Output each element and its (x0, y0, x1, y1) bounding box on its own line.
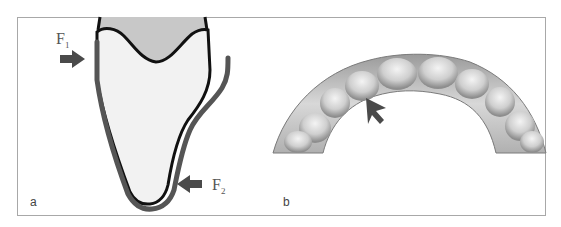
figure-illustration (0, 0, 561, 227)
force-label-f2: F2 (212, 176, 225, 196)
force-arrow-f1 (60, 50, 85, 68)
indicator-arrow (366, 98, 386, 124)
force-arrow-f2 (177, 175, 202, 193)
panel-label-a: a (30, 195, 37, 209)
panel-label-b: b (283, 195, 290, 209)
force-label-f1: F1 (56, 30, 69, 50)
panel-b-dental-arch (273, 54, 546, 153)
panel-a-tooth-diagram (60, 17, 228, 209)
